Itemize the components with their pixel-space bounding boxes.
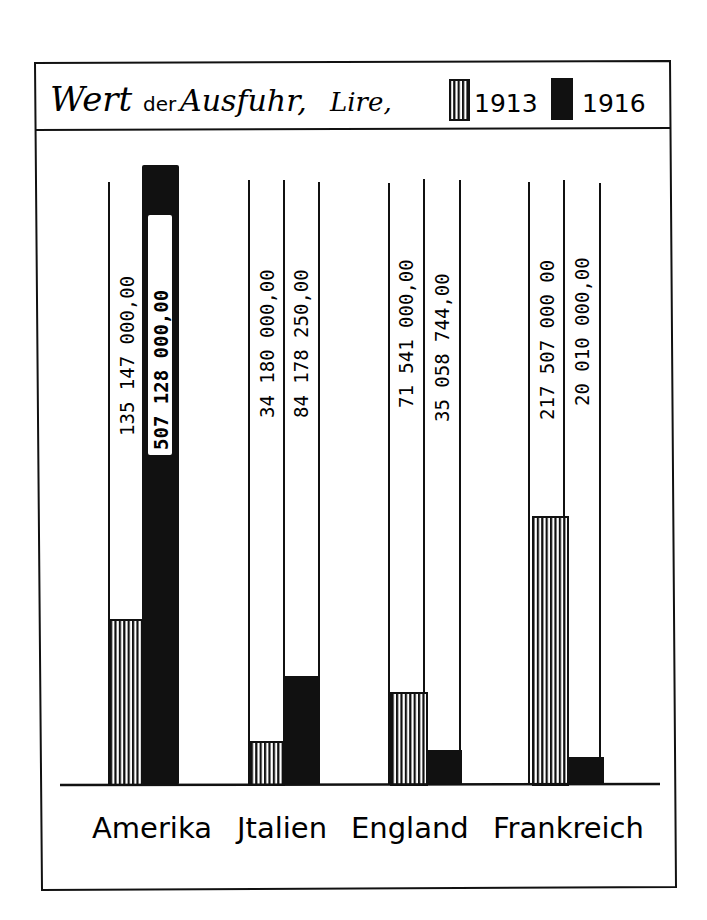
value-label-1913-frankreich: 217 507 000 00	[536, 260, 558, 420]
bar-1913-frankreich	[533, 517, 568, 785]
value-label-1913-england: 71 541 000,00	[395, 259, 417, 408]
bar-group-amerika: 135 147 000,00 507 128 000,00	[109, 165, 179, 785]
x-axis-baseline	[60, 784, 660, 785]
category-label-amerika: Amerika	[92, 811, 212, 845]
bar-group-frankreich: 217 507 000 00 20 010 000,00	[529, 180, 604, 785]
legend-label-1916: 1916	[582, 89, 646, 118]
legend-item-1913: 1913	[450, 80, 538, 120]
value-label-1913-italien: 34 180 000,00	[256, 269, 278, 418]
category-label-england: England	[351, 811, 469, 845]
value-label-1913-amerika: 135 147 000,00	[116, 276, 138, 436]
bar-1916-italien	[285, 676, 319, 785]
title-word-lire: Lire,	[329, 87, 392, 117]
chart-title: Wert der Ausfuhr, Lire,	[50, 79, 392, 119]
bar-group-italien: 34 180 000,00 84 178 250,00	[249, 180, 319, 785]
bar-1913-italien	[250, 742, 284, 785]
bar-1913-amerika	[110, 620, 145, 785]
bar-1916-frankreich	[568, 757, 604, 785]
title-word-ausfuhr: Ausfuhr,	[177, 83, 307, 118]
value-label-1916-amerika: 507 128 000,00	[150, 290, 172, 450]
title-word-wert: Wert	[50, 79, 133, 119]
category-label-frankreich: Frankreich	[493, 811, 644, 845]
chart: Wert der Ausfuhr, Lire, 1913 1916 135 14…	[0, 0, 707, 920]
legend-item-1916: 1916	[551, 78, 646, 120]
legend-swatch-hatch-icon	[450, 80, 469, 120]
legend: 1913 1916	[450, 78, 646, 120]
value-label-1916-frankreich: 20 010 000,00	[571, 257, 593, 406]
legend-label-1913: 1913	[474, 89, 538, 118]
value-label-1916-england: 35 058 744,00	[431, 273, 453, 422]
bar-group-england: 71 541 000,00 35 058 744,00	[389, 179, 462, 785]
title-word-der: der	[143, 92, 177, 116]
value-label-1916-italien: 84 178 250,00	[290, 269, 312, 418]
x-axis-labels: Amerika Jtalien England Frankreich	[92, 811, 644, 845]
header-divider	[35, 128, 671, 130]
legend-swatch-solid-icon	[551, 78, 573, 120]
bar-1916-england	[428, 750, 462, 785]
category-label-italien: Jtalien	[235, 811, 327, 845]
bar-1913-england	[391, 693, 427, 785]
